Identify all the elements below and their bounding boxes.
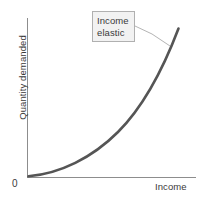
y-axis-label: Quantity demanded <box>17 18 28 138</box>
x-axis-label: Income <box>155 181 187 192</box>
origin-label: 0 <box>12 178 18 189</box>
callout-label-line1: Income <box>97 15 134 27</box>
demand-curve <box>29 29 179 177</box>
callout-leader-line <box>135 26 170 46</box>
callout-label-line2: elastic <box>97 27 134 39</box>
income-elasticity-chart: Income elastic Quantity demanded Income … <box>0 0 204 199</box>
callout-box: Income elastic <box>92 11 135 42</box>
